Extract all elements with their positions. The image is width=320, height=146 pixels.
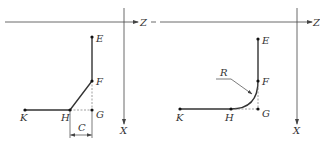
label-f: F (261, 76, 270, 87)
label-r: R (219, 67, 228, 78)
label-g: G (96, 109, 104, 120)
point-k (178, 107, 181, 110)
label-h: H (60, 112, 70, 123)
diagram-canvas: Z X E F G H K C Z X (0, 0, 320, 146)
point-f (90, 79, 93, 82)
point-f (256, 79, 259, 82)
label-f: F (95, 76, 104, 87)
label-k: K (175, 112, 184, 123)
point-g (256, 107, 259, 110)
label-k: K (19, 112, 28, 123)
label-e: E (261, 35, 270, 46)
fillet-diagram: Z X E F G H K R (160, 8, 320, 136)
label-e: E (95, 33, 104, 44)
chamfer-diagram: Z X E F G H K C (5, 8, 156, 138)
fillet-toolpath (180, 39, 258, 109)
x-axis-label: X (119, 125, 128, 136)
point-h (229, 107, 232, 110)
label-g: G (262, 108, 270, 119)
label-c: C (78, 122, 86, 133)
point-e (256, 37, 259, 40)
chamfer-toolpath (25, 37, 92, 110)
z-axis-label: Z (312, 17, 320, 28)
label-h: H (224, 112, 234, 123)
x-axis-label: X (292, 125, 301, 136)
z-axis-label: Z (139, 17, 148, 28)
point-e (90, 35, 93, 38)
radius-leader-arrow (216, 79, 252, 94)
